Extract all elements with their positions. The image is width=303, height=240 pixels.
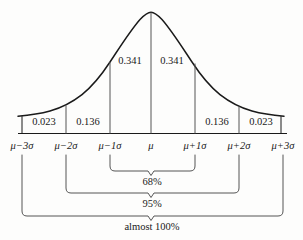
tick-label-minus-3-sigma: μ−3σ	[11, 141, 34, 152]
tick-label-mu: μ	[148, 141, 153, 152]
area-label-plus-1-to-plus-2: 0.136	[205, 117, 229, 128]
tick-label-minus-1-sigma: μ−1σ	[99, 141, 122, 152]
area-label-minus-2-to-minus-1: 0.136	[76, 117, 100, 128]
tick-label-plus-1-sigma: μ+1σ	[184, 141, 207, 152]
tick-label-plus-3-sigma: μ+3σ	[272, 141, 295, 152]
tick-label-minus-2-sigma: μ−2σ	[55, 141, 78, 152]
area-label-plus-2-to-plus-3: 0.023	[249, 117, 273, 128]
normal-distribution-figure: 0.023 0.136 0.341 0.341 0.136 0.023 μ−3σ…	[0, 0, 303, 240]
span-label-95-percent: 95%	[142, 199, 161, 210]
tick-label-plus-2-sigma: μ+2σ	[228, 141, 251, 152]
area-label-minus-1-to-mu: 0.341	[118, 56, 142, 67]
bracket-almost-100-percent	[22, 155, 283, 221]
area-label-mu-to-plus-1: 0.341	[160, 56, 184, 67]
area-label-minus-3-to-minus-2: 0.023	[32, 117, 56, 128]
span-label-68-percent: 68%	[142, 177, 161, 188]
bracket-68-percent	[110, 155, 195, 176]
span-label-almost-100-percent: almost 100%	[124, 222, 179, 233]
